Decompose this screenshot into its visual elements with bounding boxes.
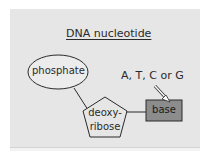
- phosphate-label: phosphate: [32, 65, 84, 76]
- deoxyribose-label-line1: deoxy-: [87, 107, 123, 118]
- base-options-annotation: A, T, C or G: [121, 69, 184, 82]
- deoxyribose-label-line2: ribose: [87, 121, 123, 132]
- base-label: base: [146, 104, 182, 115]
- diagram-title: DNA nucleotide: [66, 27, 151, 40]
